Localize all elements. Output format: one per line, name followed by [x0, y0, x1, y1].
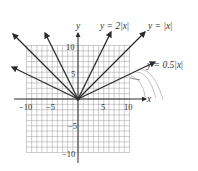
y-tick-5: 5 — [71, 69, 75, 79]
x-tick-5: 5 — [101, 102, 105, 112]
label-y-05abs-x: y = 0.5|x| — [146, 60, 183, 70]
x-tick-neg10: −10 — [19, 102, 32, 112]
y-tick-10: 10 — [66, 42, 75, 52]
series-y-abs-x — [13, 32, 145, 99]
origin-point — [76, 97, 80, 101]
label-y-abs-x: y = |x| — [147, 21, 172, 31]
label-y-2abs-x: y = 2|x| — [99, 21, 129, 31]
y-tick-neg10: −10 — [62, 149, 75, 159]
abs-value-graph: y x −10 −5 5 10 10 5 −5 −10 y = 2|x| y =… — [0, 0, 198, 171]
x-tick-neg5: −5 — [46, 102, 55, 112]
y-tick-neg5: −5 — [68, 121, 77, 131]
x-tick-10: 10 — [124, 102, 133, 112]
y-axis-label: y — [75, 21, 81, 31]
x-axis-label: x — [146, 94, 152, 104]
